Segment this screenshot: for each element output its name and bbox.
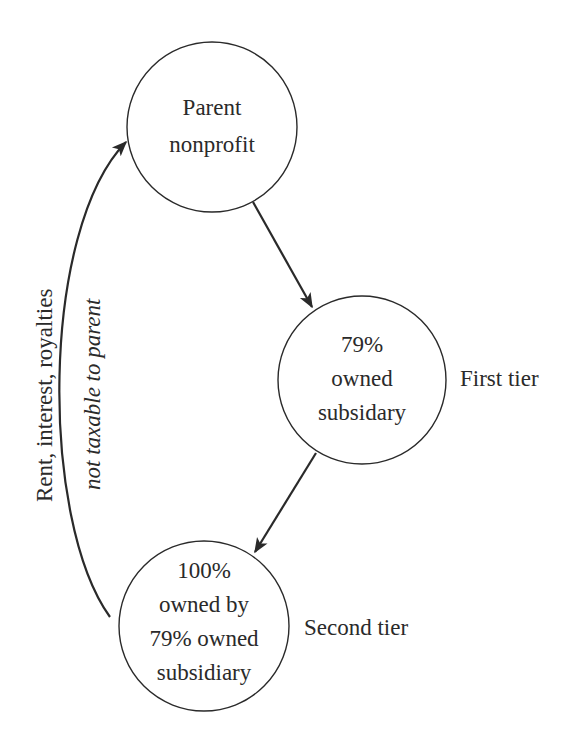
- return-flow-label-line-1: Rent, interest, royalties: [32, 289, 57, 502]
- node-first-tier-subsidiary: 79% owned subsidary: [278, 296, 446, 464]
- ownership-diagram: Parent nonprofit 79% owned subsidary Fir…: [0, 0, 576, 747]
- arrow-parent-to-first-tier: [253, 202, 312, 307]
- first-tier-label-line-1: 79%: [341, 332, 383, 357]
- second-tier-caption: Second tier: [304, 615, 408, 640]
- node-second-tier-subsidiary: 100% owned by 79% owned subsidiary: [119, 541, 289, 711]
- parent-label-line-1: Parent: [183, 95, 242, 120]
- second-tier-label-line-4: subsidiary: [157, 660, 252, 685]
- first-tier-label-line-2: owned: [331, 366, 393, 391]
- return-flow-label-line-2: not taxable to parent: [80, 298, 105, 490]
- parent-label-line-2: nonprofit: [169, 132, 255, 157]
- node-parent-nonprofit: Parent nonprofit: [127, 42, 297, 212]
- first-tier-caption: First tier: [460, 366, 539, 391]
- first-tier-label-line-3: subsidary: [318, 400, 407, 425]
- second-tier-label-line-1: 100%: [177, 558, 231, 583]
- arrow-first-to-second-tier: [255, 453, 316, 552]
- second-tier-label-line-3: 79% owned: [149, 626, 259, 651]
- second-tier-label-line-2: owned by: [159, 592, 250, 617]
